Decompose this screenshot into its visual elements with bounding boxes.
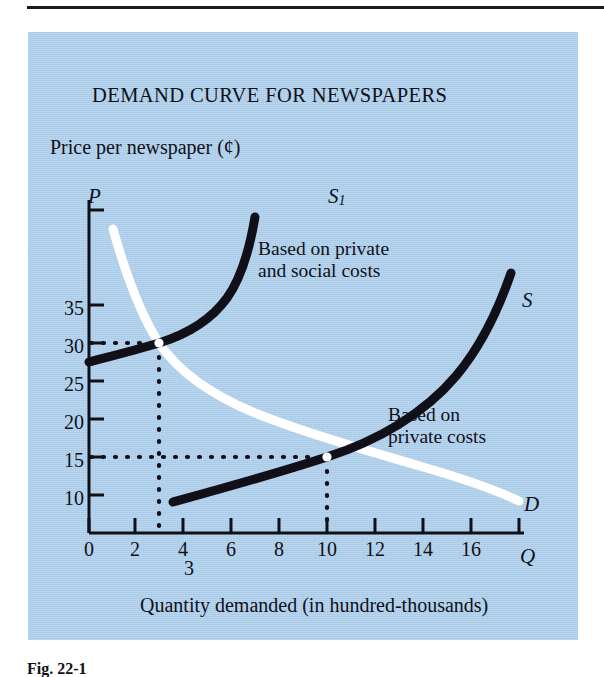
y-axis-symbol: P — [88, 184, 101, 209]
annotation-social-costs-line2: and social costs — [258, 260, 389, 282]
plot-area — [28, 32, 578, 640]
x-tick-label-16: 16 — [456, 538, 486, 561]
figure-panel: DEMAND CURVE FOR NEWSPAPERS Price per ne… — [28, 32, 578, 640]
x-tick-label-0: 0 — [74, 538, 104, 561]
top-divider-rule — [27, 6, 604, 9]
curve-label-demand: D — [524, 492, 539, 517]
equilibrium-marker-private — [322, 452, 331, 461]
annotation-social-costs-line1: Based on private — [258, 238, 389, 260]
curve-label-supply-social-letter: S — [328, 184, 339, 208]
guide-lines-social — [91, 343, 159, 531]
annotation-social-costs: Based on private and social costs — [258, 238, 389, 282]
annotation-private-costs-line2: private costs — [388, 426, 486, 448]
x-tick-label-8: 8 — [264, 538, 294, 561]
curve-label-supply-private: S — [522, 288, 533, 313]
equilibrium-marker-social — [154, 338, 163, 347]
x-tick-label-6: 6 — [216, 538, 246, 561]
x-axis-symbol: Q — [520, 544, 535, 569]
y-tick-label-15: 15 — [48, 449, 84, 472]
x-axis-ticks — [89, 518, 519, 533]
curve-label-supply-social: S1 — [328, 184, 346, 209]
curve-label-supply-social-subscript: 1 — [339, 193, 346, 208]
y-tick-label-35: 35 — [48, 297, 84, 320]
y-tick-label-10: 10 — [48, 487, 84, 510]
x-tick-label-3: 3 — [174, 557, 204, 580]
x-tick-label-2: 2 — [120, 538, 150, 561]
x-tick-label-14: 14 — [408, 538, 438, 561]
y-tick-label-20: 20 — [48, 411, 84, 434]
x-tick-label-12: 12 — [360, 538, 390, 561]
y-axis-ticks — [89, 210, 104, 495]
y-tick-label-30: 30 — [48, 335, 84, 358]
x-tick-label-10: 10 — [312, 538, 342, 561]
y-tick-label-25: 25 — [48, 373, 84, 396]
figure-caption: Fig. 22-1 — [27, 660, 87, 677]
annotation-private-costs-line1: Based on — [388, 404, 486, 426]
annotation-private-costs: Based on private costs — [388, 404, 486, 448]
x-axis-title: Quantity demanded (in hundred-thousands) — [140, 594, 488, 617]
